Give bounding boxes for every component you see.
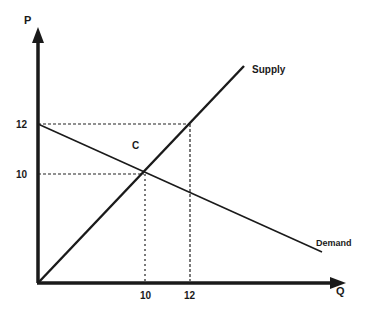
axes (32, 27, 346, 289)
x-axis-label: Q (336, 285, 345, 297)
supply-label: Supply (252, 64, 286, 75)
x-tick-10: 10 (140, 290, 152, 301)
demand-label: Demand (316, 238, 352, 248)
demand-curve (38, 124, 322, 252)
chart-canvas: P Q 12 10 10 12 Supply Demand C (0, 0, 373, 311)
y-axis-label: P (24, 14, 31, 26)
y-tick-10: 10 (16, 169, 28, 180)
y-axis-arrow-icon (32, 27, 44, 43)
x-tick-12: 12 (184, 290, 196, 301)
supply-demand-chart: P Q 12 10 10 12 Supply Demand C (0, 0, 373, 311)
point-c-label: C (132, 140, 139, 151)
y-tick-12: 12 (16, 119, 28, 130)
